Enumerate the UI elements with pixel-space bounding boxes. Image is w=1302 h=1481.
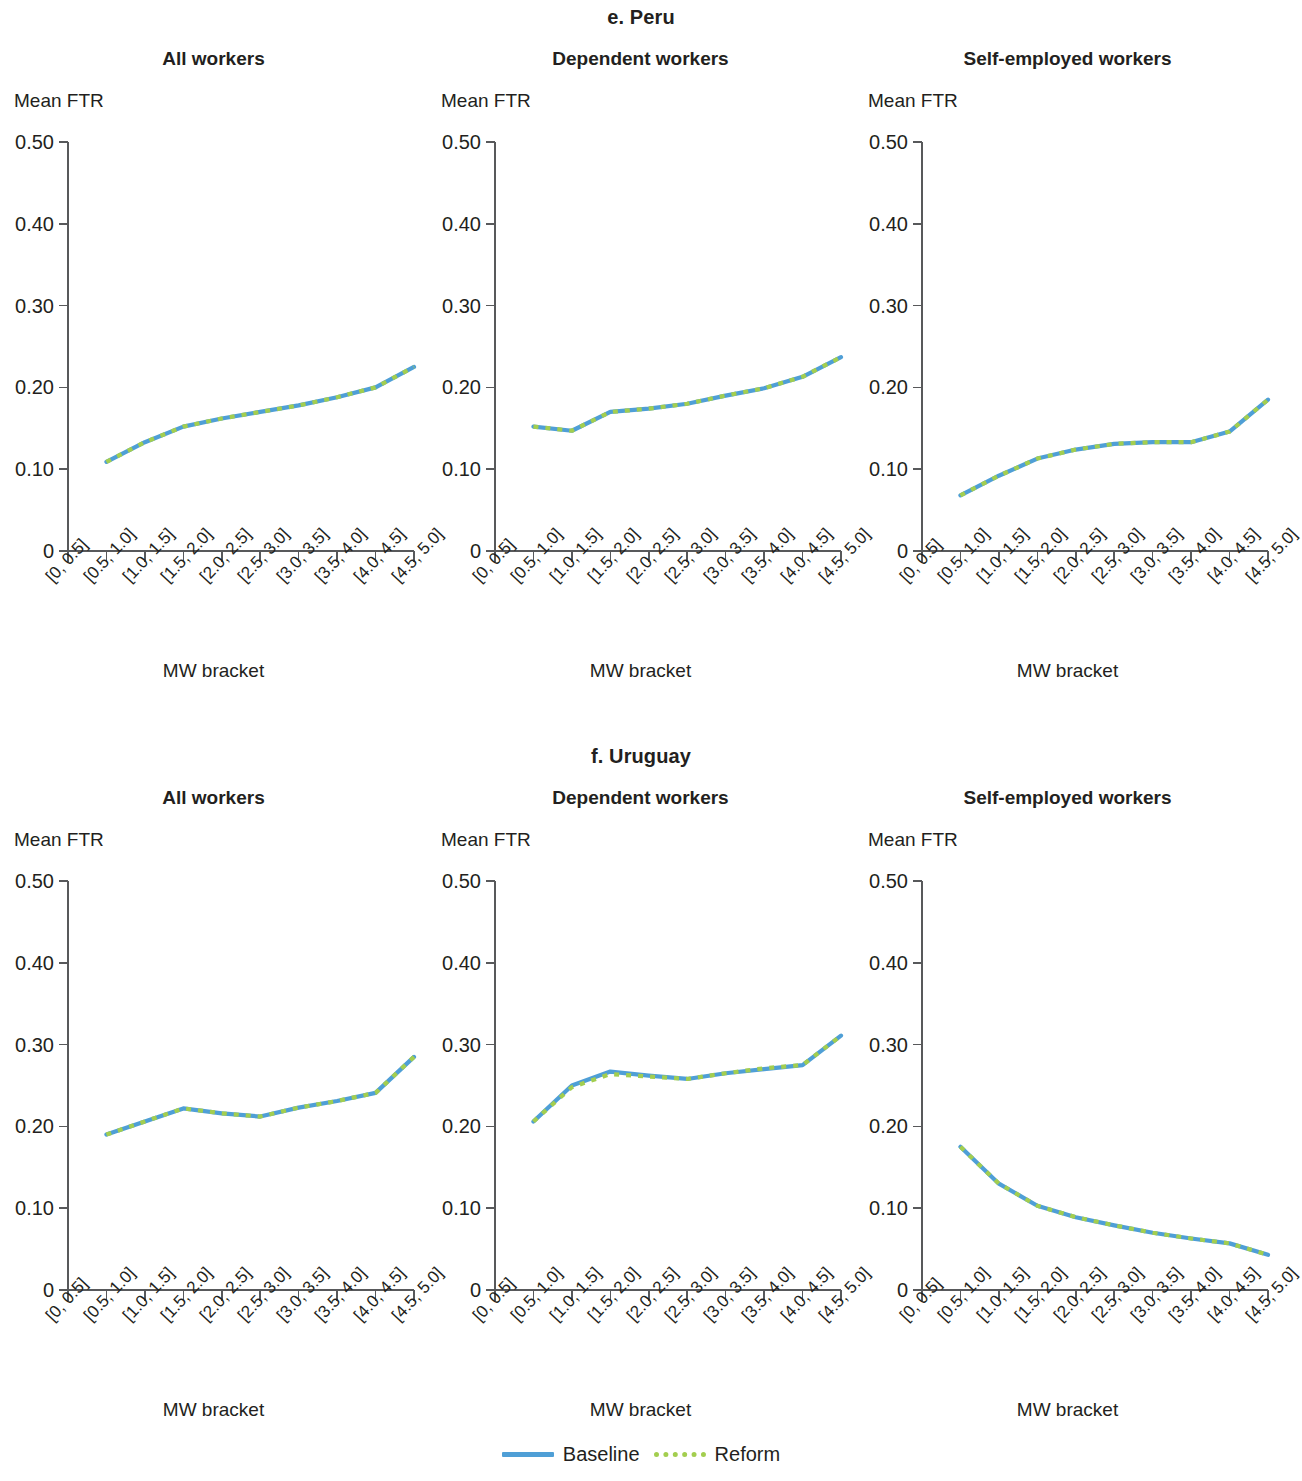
y-tick-label: 0.10 [869, 458, 908, 480]
y-tick-label: 0.20 [869, 1115, 908, 1137]
y-tick-label: 0.40 [15, 213, 54, 235]
series-line-reform [960, 400, 1268, 496]
y-tick-label: 0.40 [869, 213, 908, 235]
legend-item-baseline: Baseline [502, 1443, 640, 1466]
legend-item-reform: Reform [654, 1443, 781, 1466]
x-axis-label-peru-dependent: MW bracket [427, 660, 854, 682]
y-tick-label: 0.50 [869, 131, 908, 153]
y-tick-label: 0 [897, 1279, 908, 1301]
x-axis-label-uruguay-all: MW bracket [0, 1399, 427, 1421]
y-tick-label: 0.40 [869, 952, 908, 974]
reform-line-swatch-icon [654, 1452, 706, 1457]
y-tick-label: 0.10 [15, 1197, 54, 1219]
series-line-reform [960, 1147, 1268, 1255]
y-tick-label: 0 [43, 1279, 54, 1301]
y-tick-label: 0.50 [15, 870, 54, 892]
y-tick-label: 0.30 [442, 1034, 481, 1056]
series-line-baseline [960, 400, 1268, 496]
chart-panel-uruguay-all: All workersMean FTR0.500.400.300.200.100… [0, 739, 427, 1439]
y-tick-label: 0 [43, 540, 54, 562]
y-tick-label: 0.50 [442, 870, 481, 892]
x-axis-label-uruguay-dependent: MW bracket [427, 1399, 854, 1421]
y-tick-label: 0.30 [442, 295, 481, 317]
chart-panel-peru-dependent: Dependent workersMean FTR0.500.400.300.2… [427, 0, 854, 700]
series-line-reform [106, 1057, 414, 1135]
y-tick-label: 0.20 [442, 376, 481, 398]
x-axis-label-peru-all: MW bracket [0, 660, 427, 682]
y-tick-label: 0.20 [442, 1115, 481, 1137]
x-axis-label-peru-self-employed: MW bracket [854, 660, 1281, 682]
y-tick-label: 0.30 [15, 1034, 54, 1056]
chart-panel-peru-all: All workersMean FTR0.500.400.300.200.100… [0, 0, 427, 700]
series-line-baseline [533, 357, 841, 431]
legend-label-baseline: Baseline [563, 1443, 640, 1466]
chart-panel-peru-self-employed: Self-employed workersMean FTR0.500.400.3… [854, 0, 1281, 700]
y-tick-label: 0.40 [15, 952, 54, 974]
y-tick-label: 0.30 [869, 1034, 908, 1056]
chart-panel-uruguay-self-employed: Self-employed workersMean FTR0.500.400.3… [854, 739, 1281, 1439]
x-axis-label-uruguay-self-employed: MW bracket [854, 1399, 1281, 1421]
y-tick-label: 0.50 [869, 870, 908, 892]
y-tick-label: 0 [470, 1279, 481, 1301]
y-tick-label: 0.20 [869, 376, 908, 398]
series-line-reform [533, 357, 841, 431]
y-tick-label: 0.30 [869, 295, 908, 317]
series-line-baseline [106, 367, 414, 462]
y-tick-label: 0.20 [15, 1115, 54, 1137]
y-tick-label: 0.50 [15, 131, 54, 153]
y-tick-label: 0.10 [442, 458, 481, 480]
y-tick-label: 0.10 [442, 1197, 481, 1219]
series-line-reform [106, 367, 414, 462]
y-tick-label: 0 [897, 540, 908, 562]
baseline-line-swatch-icon [502, 1452, 554, 1457]
y-tick-label: 0.50 [442, 131, 481, 153]
series-line-baseline [960, 1147, 1268, 1255]
y-tick-label: 0.10 [15, 458, 54, 480]
series-line-reform [533, 1036, 841, 1122]
y-tick-label: 0.30 [15, 295, 54, 317]
y-tick-label: 0.20 [15, 376, 54, 398]
legend-label-reform: Reform [715, 1443, 781, 1466]
y-tick-label: 0 [470, 540, 481, 562]
y-tick-label: 0.10 [869, 1197, 908, 1219]
y-tick-label: 0.40 [442, 952, 481, 974]
chart-panel-uruguay-dependent: Dependent workersMean FTR0.500.400.300.2… [427, 739, 854, 1439]
y-tick-label: 0.40 [442, 213, 481, 235]
chart-legend: Baseline Reform [0, 1443, 1282, 1466]
